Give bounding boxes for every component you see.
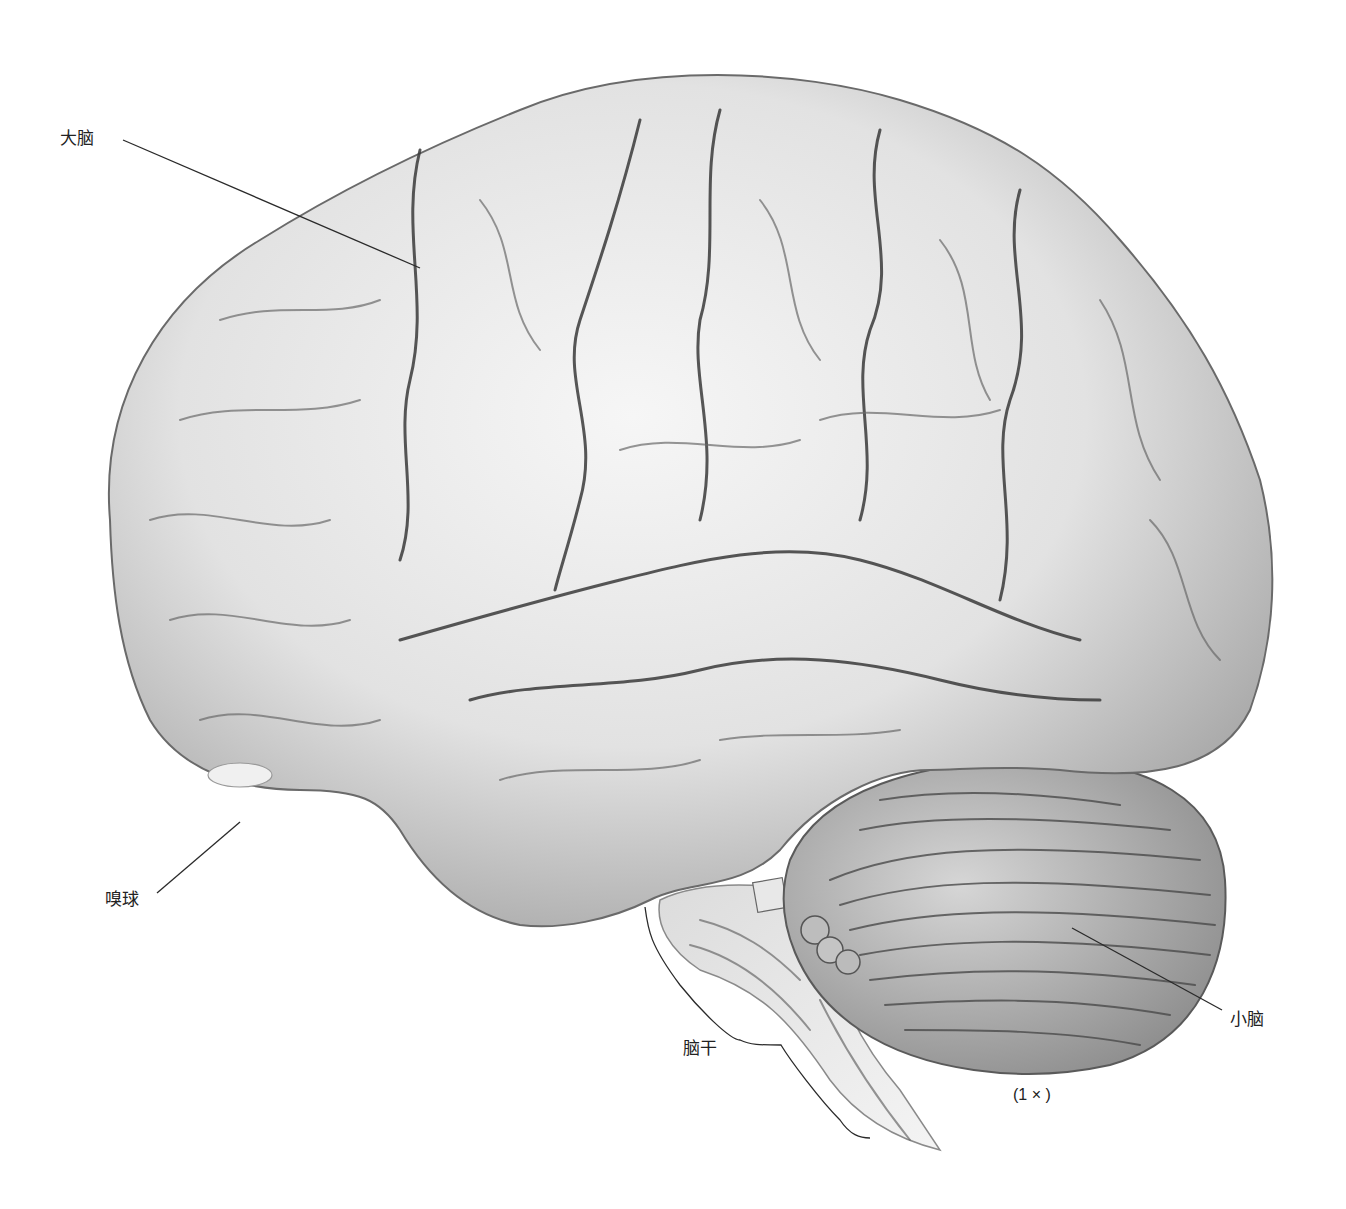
brain-diagram: 大脑 嗅球 脑干 小脑 (1 × ) [0, 0, 1346, 1209]
label-brainstem: 脑干 [683, 1034, 717, 1059]
olfactory-bulb-leader-line [157, 822, 240, 893]
label-cerebrum: 大脑 [60, 124, 94, 149]
label-olfactory-bulb: 嗅球 [105, 885, 139, 910]
brain-illustration [0, 0, 1346, 1209]
label-cerebellum: 小脑 [1230, 1005, 1264, 1030]
scale-note: (1 × ) [1013, 1086, 1051, 1104]
olfactory-bulb-shape [208, 763, 272, 787]
